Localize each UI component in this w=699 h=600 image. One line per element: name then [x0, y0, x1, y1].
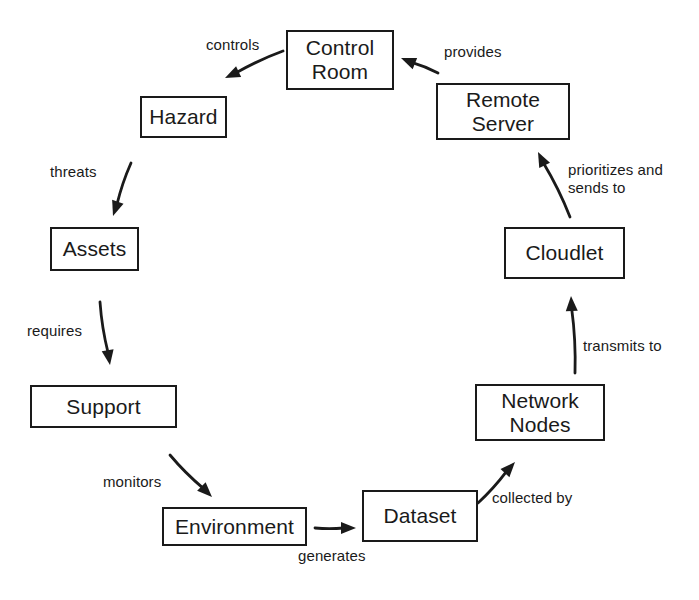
node-label: Environment: [169, 515, 300, 539]
arrow-environment-to-dataset: [315, 522, 356, 534]
node-support[interactable]: Support: [30, 385, 177, 428]
edge-label-control-room-to-hazard: controls: [206, 36, 259, 54]
arrow-layer: [0, 0, 699, 600]
node-control-room[interactable]: Control Room: [286, 30, 394, 90]
arrow-cloudlet-to-remote-server: [538, 152, 570, 217]
node-cloudlet[interactable]: Cloudlet: [504, 227, 625, 279]
edge-label-assets-to-support: requires: [27, 322, 82, 340]
arrow-hazard-to-assets: [112, 163, 131, 216]
edge-label-remote-server-to-control-room: provides: [444, 43, 502, 61]
node-environment[interactable]: Environment: [162, 507, 307, 546]
diagram-canvas: Control RoomHazardAssetsSupportEnvironme…: [0, 0, 699, 600]
arrow-support-to-environment: [170, 455, 212, 497]
arrow-remote-server-to-control-room: [401, 58, 438, 73]
node-label: Assets: [57, 237, 133, 261]
edge-label-hazard-to-assets: threats: [50, 163, 97, 181]
node-label: Remote Server: [460, 88, 546, 135]
node-label: Cloudlet: [520, 241, 610, 265]
node-dataset[interactable]: Dataset: [362, 490, 478, 542]
node-label: Hazard: [143, 105, 223, 129]
node-network-nodes[interactable]: Network Nodes: [475, 384, 605, 441]
arrow-network-nodes-to-cloudlet: [566, 296, 578, 373]
arrow-control-room-to-hazard: [225, 51, 283, 78]
edge-label-dataset-to-network-nodes: collected by: [492, 489, 572, 507]
node-hazard[interactable]: Hazard: [140, 96, 227, 138]
node-label: Network Nodes: [495, 389, 585, 436]
edge-label-support-to-environment: monitors: [103, 473, 161, 491]
edge-label-environment-to-dataset: generates: [298, 547, 366, 565]
edge-label-cloudlet-to-remote-server: prioritizes and sends to: [568, 161, 663, 196]
node-assets[interactable]: Assets: [50, 227, 139, 271]
arrow-assets-to-support: [100, 302, 114, 365]
node-label: Support: [60, 395, 146, 419]
edge-label-network-nodes-to-cloudlet: transmits to: [583, 337, 662, 355]
node-label: Dataset: [377, 504, 462, 528]
node-remote-server[interactable]: Remote Server: [436, 83, 570, 140]
node-label: Control Room: [300, 36, 380, 83]
